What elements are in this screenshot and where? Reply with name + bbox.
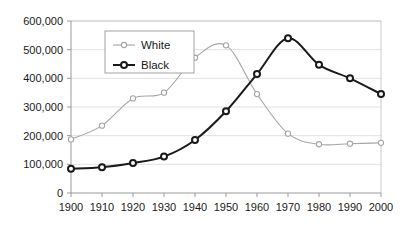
x-tick-label: 1920 <box>121 201 145 213</box>
data-point-marker <box>254 92 259 97</box>
line-chart: 0100,000200,000300,000400,000500,000600,… <box>0 0 413 237</box>
data-point-marker <box>378 140 383 145</box>
data-point-marker <box>68 137 73 142</box>
y-axis-tick-labels: 0100,000200,000300,000400,000500,000600,… <box>23 15 63 199</box>
data-point-marker <box>192 137 198 143</box>
x-tick-label: 1930 <box>152 201 176 213</box>
y-tick-label: 100,000 <box>23 158 63 170</box>
data-point-marker <box>285 131 290 136</box>
data-point-marker <box>347 75 353 81</box>
x-tick-label: 1990 <box>338 201 362 213</box>
x-tick-label: 2000 <box>369 201 393 213</box>
x-tick-label: 1950 <box>214 201 238 213</box>
data-point-marker <box>161 90 166 95</box>
x-tick-label: 1940 <box>183 201 207 213</box>
y-tick-label: 500,000 <box>23 44 63 56</box>
data-point-marker <box>285 35 291 41</box>
y-tick-label: 400,000 <box>23 72 63 84</box>
y-tick-label: 300,000 <box>23 101 63 113</box>
x-tick-label: 1960 <box>245 201 269 213</box>
chart-legend: WhiteBlack <box>105 31 194 73</box>
y-tick-label: 0 <box>57 187 63 199</box>
x-axis-tick-labels: 1900191019201930194019501960197019801990… <box>59 201 393 213</box>
data-point-marker <box>130 96 135 101</box>
chart-canvas: 0100,000200,000300,000400,000500,000600,… <box>0 0 413 237</box>
y-tick-label: 600,000 <box>23 15 63 27</box>
data-point-marker <box>378 91 384 97</box>
legend-marker-black <box>121 62 127 68</box>
x-tick-label: 1980 <box>307 201 331 213</box>
data-point-marker <box>254 71 260 77</box>
x-axis-ticks <box>71 193 381 197</box>
legend-marker-white <box>121 42 126 47</box>
data-point-marker <box>316 62 322 68</box>
legend-label-white: White <box>141 39 170 51</box>
data-point-marker <box>68 166 74 172</box>
data-point-marker <box>347 141 352 146</box>
data-point-marker <box>223 108 229 114</box>
x-tick-label: 1900 <box>59 201 83 213</box>
data-point-marker <box>223 43 228 48</box>
data-point-marker <box>130 160 136 166</box>
y-tick-label: 200,000 <box>23 130 63 142</box>
x-tick-label: 1910 <box>90 201 114 213</box>
data-point-marker <box>99 164 105 170</box>
data-point-marker <box>316 142 321 147</box>
x-tick-label: 1970 <box>276 201 300 213</box>
data-point-marker <box>99 123 104 128</box>
legend-label-black: Black <box>141 59 169 71</box>
data-point-marker <box>161 154 167 160</box>
